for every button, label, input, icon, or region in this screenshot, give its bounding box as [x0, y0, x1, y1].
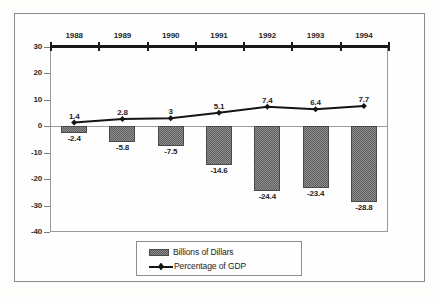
legend-label-bars: Billions of Dillars [173, 247, 233, 257]
category-label-1991: 1991 [197, 31, 241, 40]
y-axis-label-wrap: -20 [10, 174, 42, 184]
y-axis-label: -10 [16, 148, 42, 157]
y-axis-label-wrap: 20 [10, 68, 42, 78]
bar-1988 [61, 126, 87, 132]
line-value-label-1990: 3 [154, 107, 188, 116]
top-category-axis [50, 45, 388, 48]
y-axis-label: -40 [16, 227, 42, 236]
bar-1993 [303, 126, 329, 188]
legend-label-line: Percentage of GDP [174, 261, 246, 271]
category-label-1989: 1989 [100, 31, 144, 40]
bar-value-label-1989: -5.8 [100, 143, 144, 152]
y-axis-label: -20 [16, 174, 42, 183]
line-value-label-1989: 2.8 [105, 108, 139, 117]
category-axis-tick [291, 42, 293, 51]
bar-1994 [351, 126, 377, 202]
y-axis-label-wrap: 0 [10, 121, 42, 131]
bar-1990 [158, 126, 184, 146]
category-label-1990: 1990 [149, 31, 193, 40]
category-label-1994: 1994 [342, 31, 386, 40]
y-axis-label-wrap: -40 [10, 227, 42, 237]
y-axis-tick [44, 232, 50, 233]
bar-1989 [109, 126, 135, 141]
y-axis-label: -30 [16, 201, 42, 210]
line-value-label-1994: 7.7 [347, 95, 381, 104]
category-axis-tick [340, 42, 342, 51]
line-value-label-1993: 6.4 [299, 98, 333, 107]
y-axis-label: 30 [16, 42, 42, 51]
y-axis-label: 10 [16, 95, 42, 104]
y-axis-label-wrap: -30 [10, 201, 42, 211]
category-axis-tick [147, 42, 149, 51]
category-axis-tick [388, 42, 390, 51]
bar-value-label-1992: -24.4 [245, 192, 289, 201]
category-axis-tick [98, 42, 100, 51]
category-axis-tick [195, 42, 197, 51]
y-axis-label: 0 [16, 121, 42, 130]
y-axis-label-wrap: 10 [10, 95, 42, 105]
chart-legend: Billions of Dillars Percentage of GDP [136, 241, 302, 276]
bar-value-label-1990: -7.5 [149, 147, 193, 156]
bar-value-label-1994: -28.8 [342, 203, 386, 212]
legend-item-bars: Billions of Dillars [137, 245, 301, 259]
bar-1992 [254, 126, 280, 190]
bar-value-label-1988: -2.4 [52, 134, 96, 143]
y-axis-label-wrap: -10 [10, 148, 42, 158]
bar-swatch-icon [149, 249, 169, 256]
line-value-label-1992: 7.4 [250, 96, 284, 105]
legend-item-line: Percentage of GDP [137, 259, 301, 273]
line-value-label-1991: 5.1 [202, 102, 236, 111]
category-label-1993: 1993 [294, 31, 338, 40]
line-value-label-1988: 1.4 [57, 112, 91, 121]
y-axis-label: 20 [16, 68, 42, 77]
category-label-1992: 1992 [245, 31, 289, 40]
category-axis-tick [243, 42, 245, 51]
line-marker-icon [149, 262, 173, 271]
bar-1991 [206, 126, 232, 165]
scanned-figure-page: 3020100-10-20-30-40 1988-2.41.41989-5.82… [0, 0, 440, 302]
bar-value-label-1993: -23.4 [294, 189, 338, 198]
category-axis-tick [50, 42, 52, 51]
category-label-1988: 1988 [52, 31, 96, 40]
bar-value-label-1991: -14.6 [197, 166, 241, 175]
y-axis-label-wrap: 30 [10, 42, 42, 52]
